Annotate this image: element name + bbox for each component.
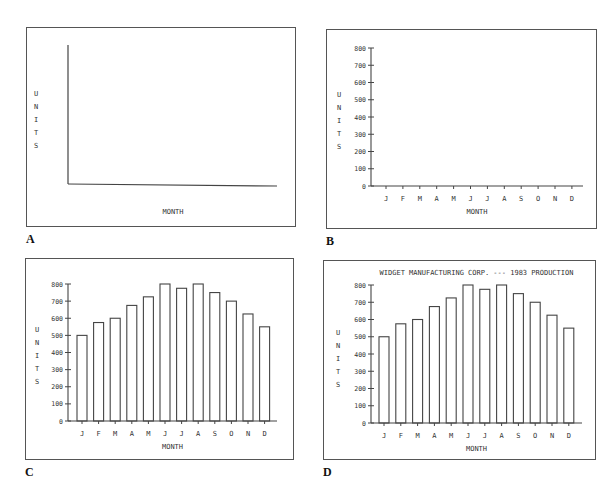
x-tick-label: F <box>399 432 403 440</box>
y-label-char: U <box>336 329 340 337</box>
x-tick-label: D <box>567 432 571 440</box>
bar <box>463 285 473 423</box>
x-tick-label: J <box>483 432 487 440</box>
bar <box>413 320 423 424</box>
y-label-char: T <box>336 368 341 376</box>
x-tick-label: S <box>516 432 520 440</box>
chart-d-svg: 0100200300400500600700800JFMAMJJASONDUNI… <box>0 0 610 494</box>
y-label-char: I <box>336 355 340 363</box>
x-axis-label: MONTH <box>466 445 487 453</box>
y-tick-label: 800 <box>354 282 366 290</box>
x-tick-label: N <box>550 432 554 440</box>
y-tick-label: 200 <box>354 385 366 393</box>
x-tick-label: O <box>533 432 537 440</box>
y-tick-label: 600 <box>354 316 366 324</box>
x-tick-label: J <box>466 432 470 440</box>
x-tick-label: M <box>449 432 453 440</box>
bar <box>564 328 574 423</box>
chart-d-plot: 0100200300400500600700800JFMAMJJASONDUNI… <box>336 269 582 453</box>
bar <box>497 285 507 423</box>
bar <box>446 298 456 423</box>
y-label-char: N <box>336 342 340 350</box>
x-tick-label: A <box>432 432 437 440</box>
y-tick-label: 700 <box>354 299 366 307</box>
y-label-char: S <box>336 381 340 389</box>
y-tick-label: 400 <box>354 351 366 359</box>
y-tick-label: 100 <box>354 402 366 410</box>
bar <box>429 307 439 423</box>
bar <box>513 294 523 423</box>
x-tick-label: M <box>415 432 419 440</box>
chart-title: WIDGET MANUFACTURING CORP. --- 1983 PROD… <box>380 269 574 277</box>
y-tick-label: 0 <box>362 420 366 428</box>
bar <box>530 302 540 423</box>
bar <box>379 337 389 423</box>
x-tick-label: A <box>499 432 504 440</box>
x-tick-label: J <box>382 432 386 440</box>
bar <box>480 289 490 423</box>
panel-letter-d: D <box>323 465 332 480</box>
y-tick-label: 300 <box>354 368 366 376</box>
bar <box>547 315 557 423</box>
y-tick-label: 500 <box>354 333 366 341</box>
bar <box>396 324 406 423</box>
